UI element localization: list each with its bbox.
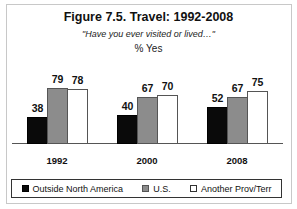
bar-2008-another-prov-terr [247,91,268,144]
bar-2008-u-s- [227,97,248,144]
legend-swatch-gray [142,185,149,192]
bar-value-label: 38 [26,102,50,114]
bar-1992-outside-north-america [27,117,48,144]
bar-value-label: 75 [246,76,270,88]
legend-item-us: U.S. [142,184,171,194]
bar-2000-u-s- [137,97,158,144]
legend-label: Another Prov/Terr [201,184,272,194]
chart-subtitle: "Have you ever visited or lived…" [0,29,297,39]
bar-value-label: 40 [116,100,140,112]
bar-2000-another-prov-terr [157,95,178,144]
x-tick-label: 2008 [207,155,267,166]
x-tick-label: 1992 [27,155,87,166]
bar-2008-outside-north-america [207,107,228,144]
legend-item-outside-north-america: Outside North America [22,184,124,194]
bar-value-label: 78 [66,74,90,86]
legend-swatch-black [22,185,29,192]
bar-2000-outside-north-america [117,115,138,144]
bar-value-label: 70 [156,80,180,92]
y-axis-label: % Yes [0,43,297,54]
chart-title: Figure 7.5. Travel: 1992-2008 [0,10,297,24]
legend-label: Outside North America [33,184,124,194]
bar-1992-another-prov-terr [67,89,88,144]
x-tick-label: 2000 [117,155,177,166]
legend-item-another-prov-terr: Another Prov/Terr [190,184,272,194]
bar-1992-u-s- [47,88,68,144]
legend-label: U.S. [153,184,171,194]
legend: Outside North America U.S. Another Prov/… [11,179,282,198]
legend-swatch-white [190,185,197,192]
